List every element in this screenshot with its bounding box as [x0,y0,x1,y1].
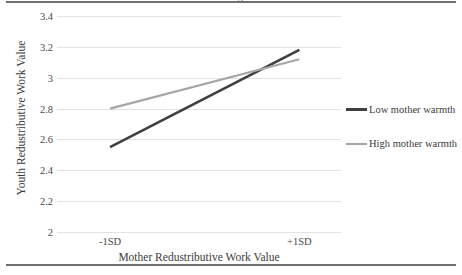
y-tick-label: 3 [19,72,53,83]
y-tick-label: 3.2 [19,41,53,52]
x-axis-title: Mother Redustributive Work Value [57,251,341,263]
legend-label: High mother warmth [369,138,457,149]
y-axis-tick-labels: 3.43.232.82.62.42.22 [13,16,53,232]
gridline [57,232,341,233]
y-tick-label: 2 [19,227,53,238]
legend-swatch-icon [346,108,367,111]
y-tick-label: 2.4 [19,165,53,176]
line-chart-figure: Youth Redustributive Work Value 3.43.232… [0,0,462,275]
legend-swatch-icon [346,143,367,145]
y-tick-label: 3.4 [19,11,53,22]
legend-label: Low mother warmth [369,104,455,115]
legend-item-high-mother-warmth[interactable]: High mother warmth [346,138,457,149]
x-tick-label: +1SD [287,236,312,247]
x-tick-label: -1SD [99,236,121,247]
series-lines [57,16,341,232]
y-tick-label: 2.8 [19,103,53,114]
legend-item-low-mother-warmth[interactable]: Low mother warmth [346,104,455,115]
y-tick-label: 2.6 [19,134,53,145]
series-line [110,50,299,147]
series-line [110,59,299,108]
y-tick-label: 2.2 [19,196,53,207]
plot-area [57,16,341,232]
